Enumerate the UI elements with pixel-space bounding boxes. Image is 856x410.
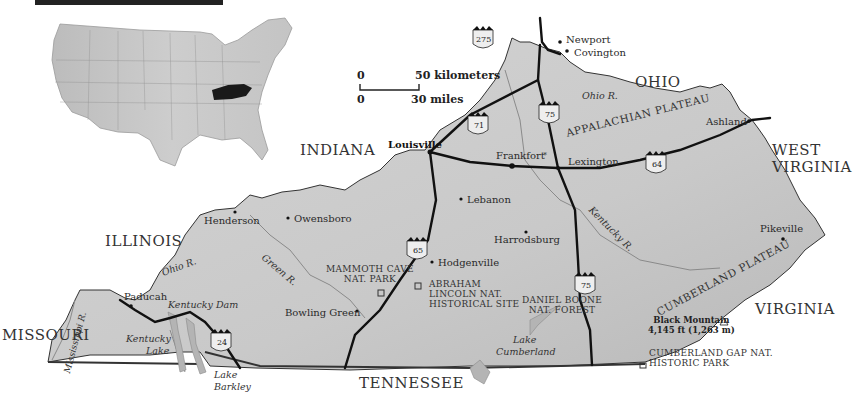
scale-mi-zero: 0 — [357, 94, 365, 105]
park-label-boone-line2: NAT. FOREST — [522, 306, 602, 316]
city-label-harrodsburg: Harrodsburg — [494, 235, 560, 245]
city-label-lexington: Lexington — [568, 157, 619, 167]
city-label-paducah: Paducah — [124, 292, 167, 302]
shield-i75-south: 75 — [581, 282, 591, 290]
state-label-ohio: OHIO — [635, 75, 681, 90]
label-kentucky-lake-line2: Lake — [146, 346, 169, 356]
shield-i65: 65 — [413, 247, 423, 255]
scale-bar — [360, 84, 419, 90]
capital-star-icon: * — [543, 152, 547, 160]
label-lake-barkley-line1: Lake — [214, 370, 237, 380]
city-label-covington: Covington — [574, 48, 626, 58]
us-inset-map — [52, 18, 292, 166]
river-label-ohio-east: Ohio R. — [582, 91, 618, 101]
peak-elevation: 4,145 ft (1,263 m) — [648, 326, 735, 336]
city-label-hodgenville: Hodgenville — [438, 258, 499, 268]
city-label-newport: Newport — [566, 35, 610, 45]
park-label-mammoth-cave: MAMMOTH CAVE NAT. PARK — [326, 265, 414, 285]
label-kentucky-lake-line1: Kentucky — [126, 334, 171, 344]
city-label-frankfort: Frankfort — [496, 151, 545, 161]
scale-km-label: 50 kilometers — [415, 70, 500, 81]
label-lake-cumberland-line2: Cumberland — [496, 347, 556, 357]
city-label-bowling-green: Bowling Green — [285, 308, 360, 318]
label-lake-cumberland-line1: Lake — [513, 335, 536, 345]
peak-label-black-mountain: Black Mountain 4,145 ft (1,263 m) — [648, 316, 735, 336]
state-label-indiana: INDIANA — [300, 143, 375, 158]
park-label-abraham-lincoln: ABRAHAM LINCOLN NAT. HISTORICAL SITE — [429, 280, 519, 310]
city-label-pikeville: Pikeville — [760, 224, 803, 234]
state-label-virginia: VIRGINIA — [755, 302, 835, 317]
city-label-ashland: Ashland — [706, 117, 747, 127]
city-label-lebanon: Lebanon — [467, 195, 511, 205]
park-label-lincoln-line3: HISTORICAL SITE — [429, 300, 519, 310]
park-label-cumberland-gap-line2: HISTORIC PARK — [649, 359, 773, 369]
shield-i71: 71 — [474, 122, 484, 130]
state-label-tennessee: TENNESSEE — [359, 376, 464, 391]
park-label-cumberland-gap: CUMBERLAND GAP NAT. HISTORIC PARK — [649, 349, 773, 369]
scale-km-zero: 0 — [357, 70, 365, 81]
shield-i24: 24 — [217, 339, 227, 347]
park-label-mammoth-line2: NAT. PARK — [326, 275, 414, 285]
label-lake-barkley-line2: Barkley — [214, 382, 251, 392]
shield-i275: 275 — [476, 36, 491, 44]
park-label-daniel-boone: DANIEL BOONE NAT. FOREST — [522, 296, 602, 316]
state-label-illinois: ILLINOIS — [105, 234, 182, 249]
city-label-henderson: Henderson — [204, 216, 260, 226]
city-label-owensboro: Owensboro — [294, 214, 351, 224]
scale-mi-label: 30 miles — [411, 94, 463, 105]
label-kentucky-dam: Kentucky Dam — [168, 300, 238, 310]
state-label-west-virginia-line1: WEST — [772, 143, 821, 158]
shield-i64: 64 — [652, 161, 662, 169]
state-label-west-virginia-line2: VIRGINIA — [772, 160, 852, 175]
shield-i75-north: 75 — [545, 111, 555, 119]
city-label-louisville: Louisville — [388, 140, 442, 150]
kentucky-map: 275 71 75 64 65 75 24 0 50 kilometers 0 … — [0, 0, 856, 410]
